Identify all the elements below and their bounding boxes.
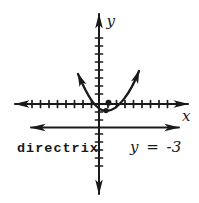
coordinate-plane-figure: y x directrix y = -3 <box>0 0 199 203</box>
y-axis-label: y <box>106 12 116 30</box>
x-axis-label: x <box>182 107 191 125</box>
directrix-label: directrix <box>17 141 99 156</box>
focus-point <box>106 100 112 106</box>
x-axis <box>15 101 188 108</box>
figure-canvas: y x directrix y = -3 <box>0 0 199 203</box>
vertex-point <box>103 108 108 113</box>
directrix-equation-label: y = -3 <box>129 138 181 156</box>
